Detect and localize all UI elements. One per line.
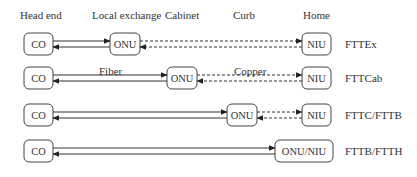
onu-niu-box-label: ONU/NIU bbox=[282, 146, 327, 157]
fiber-link bbox=[53, 41, 110, 47]
column-headers: Head endLocal exchangeCabinetCurbHome bbox=[20, 9, 330, 21]
niu-box-label: NIU bbox=[307, 110, 326, 121]
fiber-link bbox=[53, 148, 275, 154]
column-header: Local exchange bbox=[92, 9, 161, 21]
column-header: Curb bbox=[233, 9, 256, 21]
architecture-rows: COONUNIUFTTExCOONUNIUFTTCabCOONUNIUFTTC/… bbox=[24, 33, 403, 162]
niu-box: NIU bbox=[302, 104, 331, 126]
co-box-label: CO bbox=[31, 39, 46, 50]
co-box: CO bbox=[24, 33, 53, 55]
fiber-label: Fiber bbox=[99, 65, 123, 77]
fiber-link bbox=[53, 112, 227, 118]
co-box: CO bbox=[24, 104, 53, 126]
co-box: CO bbox=[24, 67, 53, 89]
copper-label: Copper bbox=[234, 65, 267, 77]
copper-link bbox=[140, 41, 302, 47]
onu-box: ONU bbox=[167, 67, 197, 89]
co-box: CO bbox=[24, 140, 53, 162]
architecture-type-label: FTTC/FTTB bbox=[345, 109, 402, 121]
co-box-label: CO bbox=[31, 110, 46, 121]
column-header: Home bbox=[303, 9, 330, 21]
niu-box: NIU bbox=[302, 67, 331, 89]
niu-box-label: NIU bbox=[307, 39, 326, 50]
architecture-type-label: FTTEx bbox=[345, 38, 377, 50]
co-box-label: CO bbox=[31, 73, 46, 84]
row-fttex: COONUNIUFTTEx bbox=[24, 33, 377, 55]
niu-box: NIU bbox=[302, 33, 331, 55]
row-fttcab: COONUNIUFTTCab bbox=[24, 67, 383, 89]
diagram-canvas: Head endLocal exchangeCabinetCurbHome CO… bbox=[0, 0, 417, 177]
onu-box: ONU bbox=[110, 33, 140, 55]
column-header: Head end bbox=[20, 9, 62, 21]
co-box-label: CO bbox=[31, 146, 46, 157]
onu-box-label: ONU bbox=[114, 39, 137, 50]
row-fttb-ftth: COONU/NIUFTTB/FTTH bbox=[24, 140, 403, 162]
architecture-type-label: FTTB/FTTH bbox=[345, 145, 403, 157]
architecture-type-label: FTTCab bbox=[345, 72, 383, 84]
row-fttc-fttb: COONUNIUFTTC/FTTB bbox=[24, 104, 402, 126]
fttx-architecture-diagram: Head endLocal exchangeCabinetCurbHome CO… bbox=[0, 0, 417, 177]
column-header: Cabinet bbox=[165, 9, 199, 21]
niu-box-label: NIU bbox=[307, 73, 326, 84]
onu-niu-box: ONU/NIU bbox=[275, 140, 333, 162]
onu-box-label: ONU bbox=[231, 110, 254, 121]
copper-link bbox=[257, 112, 302, 118]
onu-box: ONU bbox=[227, 104, 257, 126]
onu-box-label: ONU bbox=[171, 73, 194, 84]
